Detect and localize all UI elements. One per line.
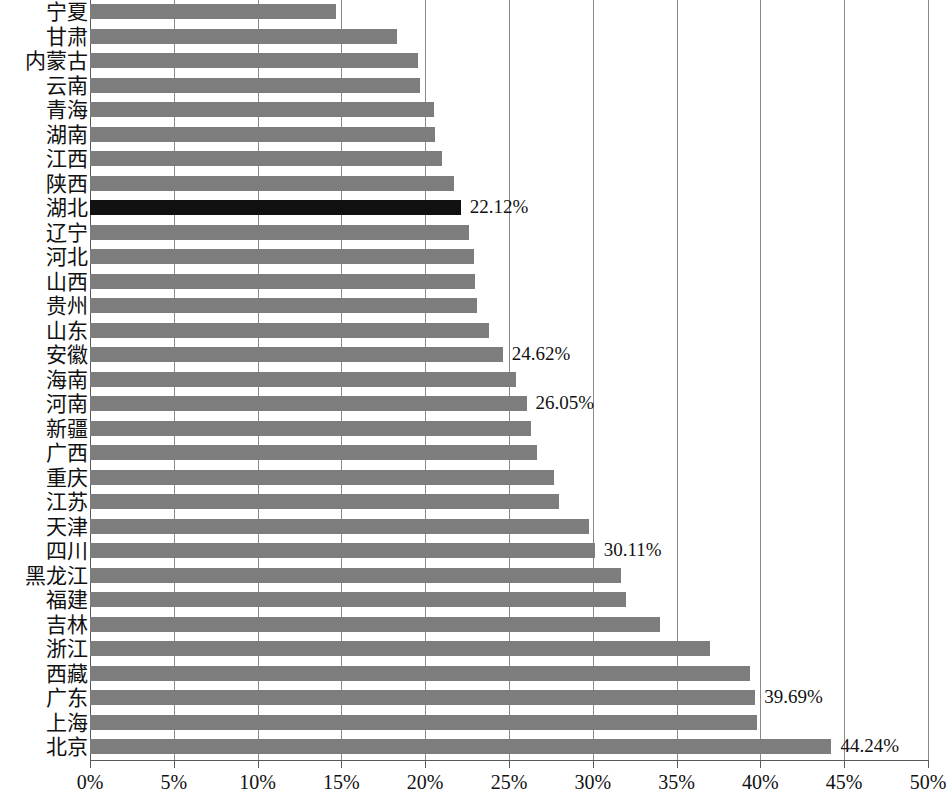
category-label: 内蒙古 — [2, 49, 88, 74]
chart-row — [90, 0, 928, 25]
bar — [90, 543, 595, 558]
category-label: 湖南 — [2, 123, 88, 148]
x-axis-tick — [928, 760, 929, 768]
x-axis-tick-label: 30% — [553, 770, 633, 794]
bar-value-label: 26.05% — [536, 391, 595, 415]
bar — [90, 641, 710, 656]
x-axis-tick — [844, 760, 845, 768]
category-label: 上海 — [2, 711, 88, 736]
category-label: 天津 — [2, 515, 88, 540]
bar — [90, 690, 755, 705]
chart-row — [90, 221, 928, 246]
x-axis-tick-label: 20% — [385, 770, 465, 794]
category-label: 辽宁 — [2, 221, 88, 246]
category-label: 广东 — [2, 686, 88, 711]
category-label: 山东 — [2, 319, 88, 344]
bar — [90, 494, 559, 509]
bar — [90, 715, 757, 730]
bar — [90, 200, 461, 215]
category-label: 河北 — [2, 245, 88, 270]
x-axis-tick-label: 10% — [218, 770, 298, 794]
bar — [90, 176, 454, 191]
bar — [90, 568, 621, 583]
chart-row — [90, 98, 928, 123]
bar — [90, 592, 626, 607]
chart-row — [90, 662, 928, 687]
x-axis-tick — [341, 760, 342, 768]
category-label: 江苏 — [2, 490, 88, 515]
bar — [90, 739, 831, 754]
bar — [90, 298, 477, 313]
x-axis-tick-label: 5% — [134, 770, 214, 794]
chart-row: 26.05% — [90, 392, 928, 417]
bar — [90, 4, 336, 19]
bar — [90, 372, 516, 387]
chart-row — [90, 294, 928, 319]
x-axis-tick-label: 15% — [301, 770, 381, 794]
chart-row: 30.11% — [90, 539, 928, 564]
bar-value-label: 22.12% — [470, 195, 529, 219]
bar — [90, 53, 418, 68]
chart-row — [90, 172, 928, 197]
bar — [90, 78, 420, 93]
bar — [90, 274, 475, 289]
x-axis-tick — [760, 760, 761, 768]
category-label: 吉林 — [2, 613, 88, 638]
chart-row — [90, 270, 928, 295]
bar — [90, 127, 435, 142]
bar — [90, 519, 589, 534]
bar — [90, 151, 442, 166]
bar — [90, 396, 527, 411]
category-label: 安徽 — [2, 343, 88, 368]
category-label: 四川 — [2, 539, 88, 564]
bar-value-label: 30.11% — [604, 538, 662, 562]
chart-row — [90, 490, 928, 515]
chart-row — [90, 588, 928, 613]
bar — [90, 29, 397, 44]
category-label: 海南 — [2, 368, 88, 393]
x-axis-tick-label: 45% — [804, 770, 884, 794]
chart-row: 39.69% — [90, 686, 928, 711]
bar — [90, 470, 554, 485]
x-axis-tick-label: 0% — [50, 770, 130, 794]
bar — [90, 666, 750, 681]
x-axis-tick — [425, 760, 426, 768]
chart-row — [90, 49, 928, 74]
bar — [90, 249, 474, 264]
x-axis-tick-label: 35% — [637, 770, 717, 794]
chart-row — [90, 25, 928, 50]
chart-row — [90, 564, 928, 589]
category-label: 贵州 — [2, 294, 88, 319]
category-label: 湖北 — [2, 196, 88, 221]
bar-value-label: 39.69% — [764, 685, 823, 709]
bar — [90, 445, 537, 460]
chart-row — [90, 711, 928, 736]
chart-row: 22.12% — [90, 196, 928, 221]
plot-area: 22.12%24.62%26.05%30.11%39.69%44.24% — [90, 0, 928, 760]
x-axis-tick — [90, 760, 91, 768]
category-label: 广西 — [2, 441, 88, 466]
bar-chart: 宁夏甘肃内蒙古云南青海湖南江西陕西湖北辽宁河北山西贵州山东安徽海南河南新疆广西重… — [0, 0, 950, 799]
chart-row — [90, 147, 928, 172]
chart-row: 24.62% — [90, 343, 928, 368]
chart-row — [90, 74, 928, 99]
chart-row — [90, 245, 928, 270]
x-axis-tick — [677, 760, 678, 768]
category-label: 云南 — [2, 74, 88, 99]
x-axis-tick — [593, 760, 594, 768]
chart-row — [90, 637, 928, 662]
category-label: 江西 — [2, 147, 88, 172]
bar — [90, 102, 434, 117]
category-label: 福建 — [2, 588, 88, 613]
bar-value-label: 24.62% — [512, 342, 571, 366]
chart-row — [90, 466, 928, 491]
chart-row — [90, 319, 928, 344]
bar — [90, 421, 531, 436]
category-label: 宁夏 — [2, 0, 88, 25]
bar — [90, 323, 489, 338]
category-label: 浙江 — [2, 637, 88, 662]
chart-row: 44.24% — [90, 735, 928, 760]
gridline — [928, 0, 929, 760]
chart-row — [90, 417, 928, 442]
x-axis-tick — [509, 760, 510, 768]
